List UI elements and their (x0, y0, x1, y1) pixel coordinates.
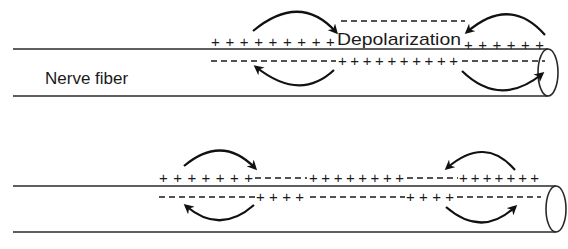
fiber-end-cap (538, 49, 558, 96)
current-arrow-outer-left (184, 150, 255, 168)
inner-positive-charges-seg4: ++++ (406, 188, 454, 205)
current-arrow-inner-right (446, 207, 515, 223)
outer-positive-charges-seg1: +++++++ (159, 169, 253, 186)
fiber-end-cap (546, 186, 566, 232)
current-arrow-outer-left (253, 12, 336, 32)
current-arrow-outer-right (447, 152, 515, 170)
outer-positive-charges-seg3: ++++++++ (309, 169, 404, 186)
inner-positive-charges-depolarized: ++++++++++ (338, 52, 458, 69)
outer-positive-charges-left: +++++++++ (211, 33, 335, 50)
inner-positive-charges-seg2: ++++ (256, 188, 304, 205)
outer-positive-charges-right: ++++++ (464, 36, 544, 53)
bottom-nerve-fiber: +++++++ ++++++++ +++++++ ++++ ++++ (13, 150, 566, 232)
current-arrow-inner-left (186, 205, 254, 220)
top-nerve-fiber: Nerve fiber +++++++++ Depolarization +++… (13, 12, 558, 96)
outer-positive-charges-seg5: +++++++ (459, 169, 539, 186)
current-arrow-outer-right (467, 14, 545, 35)
depolarization-label: Depolarization (337, 30, 461, 49)
current-arrow-inner-left (256, 67, 334, 85)
current-arrow-inner-right (462, 71, 542, 90)
nerve-conduction-diagram: Nerve fiber +++++++++ Depolarization +++… (0, 0, 568, 249)
nerve-fiber-label: Nerve fiber (45, 69, 128, 88)
